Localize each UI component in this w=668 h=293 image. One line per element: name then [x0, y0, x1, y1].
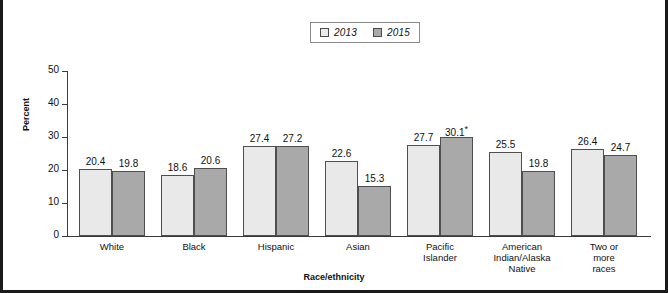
y-tick: 30	[3, 137, 67, 138]
bar-value-label: 24.7	[611, 142, 630, 153]
legend-item-2013: 2013	[320, 27, 357, 38]
bar-value-label: 18.6	[168, 162, 187, 173]
bar-value-label: 25.5	[496, 139, 515, 150]
y-tick-label: 0	[53, 229, 59, 240]
bar-pair: 18.620.6	[161, 71, 227, 236]
bar-value-label: 19.8	[119, 158, 138, 169]
bar-group: 20.419.8White	[79, 71, 145, 236]
legend-item-2015: 2015	[373, 27, 410, 38]
y-tick-label: 40	[48, 97, 59, 108]
x-axis-line	[67, 236, 651, 237]
x-tick-label: Two or more races	[588, 241, 621, 274]
chart-page-frame: 2013 2015 Percent 01020304050 20.419.8Wh…	[0, 0, 668, 293]
bar-value-label: 19.8	[529, 158, 548, 169]
x-tick-label: American Indian/Alaska Native	[493, 241, 550, 274]
bar-group: 27.730.1*Pacific Islander	[407, 71, 473, 236]
bar-value-label: 27.4	[250, 133, 269, 144]
y-tick: 10	[3, 203, 67, 204]
bar-value-label: 20.4	[86, 156, 105, 167]
bar-pair: 27.730.1*	[407, 71, 473, 236]
y-tick-label: 20	[48, 163, 59, 174]
bar-2013[interactable]: 20.4	[79, 169, 112, 236]
bar-2015[interactable]: 20.6	[194, 168, 227, 236]
y-tick-mark	[62, 236, 67, 237]
bar-pair: 20.419.8	[79, 71, 145, 236]
bar-group: 22.615.3Asian	[325, 71, 391, 236]
y-tick-mark	[62, 104, 67, 105]
bar-value-label: 27.7	[414, 132, 433, 143]
bar-group: 27.427.2Hispanic	[243, 71, 309, 236]
y-tick: 0	[3, 236, 67, 237]
x-tick-label: Asian	[346, 241, 370, 252]
y-tick-mark	[62, 71, 67, 72]
bar-value-label: 15.3	[365, 173, 384, 184]
y-tick: 40	[3, 104, 67, 105]
bar-2015[interactable]: 30.1*	[440, 137, 473, 236]
bar-group: 25.519.8American Indian/Alaska Native	[489, 71, 555, 236]
bar-value-label: 20.6	[201, 155, 220, 166]
bar-2015[interactable]: 19.8	[522, 171, 555, 236]
chart-legend: 2013 2015	[310, 22, 420, 43]
y-tick-mark	[62, 170, 67, 171]
x-axis-title: Race/ethnicity	[3, 272, 665, 282]
bar-2013[interactable]: 27.7	[407, 145, 440, 236]
bar-2013[interactable]: 27.4	[243, 146, 276, 236]
plot-area: 01020304050 20.419.8White18.620.6Black27…	[67, 71, 651, 236]
bar-2013[interactable]: 22.6	[325, 161, 358, 236]
y-tick-label: 30	[48, 130, 59, 141]
bar-value-label: 27.2	[283, 133, 302, 144]
bar-pair: 26.424.7	[571, 71, 637, 236]
bar-group: 26.424.7Two or more races	[571, 71, 637, 236]
bar-value-label: 22.6	[332, 148, 351, 159]
legend-label-2013: 2013	[334, 27, 357, 38]
y-tick-mark	[62, 137, 67, 138]
bar-pair: 27.427.2	[243, 71, 309, 236]
y-tick: 50	[3, 71, 67, 72]
bar-2015[interactable]: 27.2	[276, 146, 309, 236]
x-tick-label: Pacific Islander	[423, 241, 457, 263]
y-tick-label: 10	[48, 196, 59, 207]
bar-2015[interactable]: 24.7	[604, 155, 637, 237]
bar-value-label: 26.4	[578, 136, 597, 147]
y-tick-label: 50	[48, 64, 59, 75]
legend-label-2015: 2015	[387, 27, 410, 38]
bar-pair: 22.615.3	[325, 71, 391, 236]
bar-2013[interactable]: 25.5	[489, 152, 522, 236]
legend-swatch-light-icon	[320, 28, 329, 37]
legend-swatch-dark-icon	[373, 28, 382, 37]
bar-2013[interactable]: 26.4	[571, 149, 604, 236]
bar-pair: 25.519.8	[489, 71, 555, 236]
x-tick-label: Black	[182, 241, 205, 252]
bar-value-label: 30.1*	[445, 124, 468, 138]
x-tick-label: Hispanic	[258, 241, 294, 252]
bar-2013[interactable]: 18.6	[161, 175, 194, 236]
bar-2015[interactable]: 15.3	[358, 186, 391, 236]
y-tick-mark	[62, 203, 67, 204]
bar-group: 18.620.6Black	[161, 71, 227, 236]
x-tick-label: White	[100, 241, 124, 252]
y-tick: 20	[3, 170, 67, 171]
y-axis-title: Percent	[21, 98, 31, 131]
bar-2015[interactable]: 19.8	[112, 171, 145, 236]
